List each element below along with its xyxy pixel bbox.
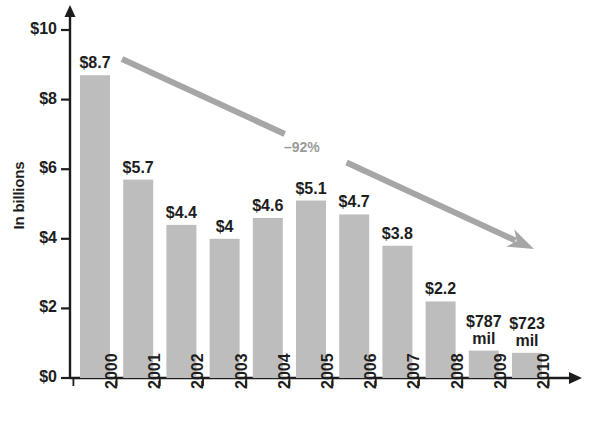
x-axis-tick-label: 2009	[492, 353, 510, 389]
bar-value-label: $5.7	[108, 159, 168, 176]
x-axis-tick-label: 2008	[449, 353, 467, 389]
y-axis-title: In billions	[10, 146, 27, 246]
bar	[296, 201, 326, 378]
bar-value-label: $4.6	[238, 197, 298, 214]
x-axis-tick-label: 2006	[362, 353, 380, 389]
x-axis-tick-label: 2001	[146, 353, 164, 389]
y-axis-tick-label: $10	[30, 20, 57, 38]
bar-value-label-line: $723	[497, 315, 557, 332]
x-axis-tick-label: 2000	[103, 353, 121, 389]
bar-value-label: $2.2	[411, 280, 471, 297]
x-axis-tick-label: 2007	[405, 353, 423, 389]
bar-value-label: $8.7	[65, 54, 125, 71]
bar	[123, 180, 153, 378]
bar-chart: In billions $0$2$4$6$8$10 20002001200220…	[0, 0, 595, 427]
bar-value-label-line: mil	[497, 332, 557, 349]
y-axis-tick-label: $2	[39, 298, 57, 316]
trend-arrow-segment	[122, 59, 285, 134]
bar-value-label: $3.8	[367, 225, 427, 242]
x-axis-arrowhead	[569, 372, 582, 384]
y-axis-tick-label: $4	[39, 229, 57, 247]
bar-value-label: $4	[195, 218, 255, 235]
x-axis-tick-label: 2005	[319, 353, 337, 389]
trend-decline-label: –92%	[284, 139, 320, 155]
x-axis-tick-label: 2004	[276, 353, 294, 389]
y-axis-tick-label: $6	[39, 159, 57, 177]
bar	[80, 75, 110, 378]
y-axis-tick-label: $8	[39, 90, 57, 108]
bar-value-label: $4.7	[324, 193, 384, 210]
x-axis-tick-label: 2002	[189, 353, 207, 389]
x-axis-tick-label: 2003	[233, 353, 251, 389]
y-axis-arrowhead	[65, 5, 76, 17]
y-axis-tick-label: $0	[39, 368, 57, 386]
x-axis-tick-label: 2010	[535, 353, 553, 389]
bar-value-label: $723mil	[497, 315, 557, 349]
